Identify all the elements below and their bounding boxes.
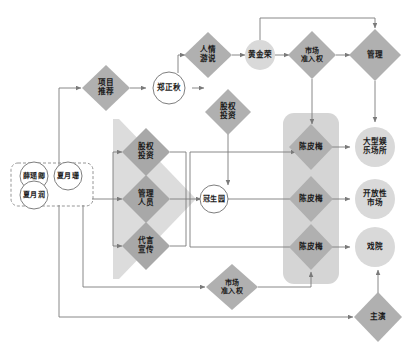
- node-shi-chang-zhun-ru-quan-bottom: [206, 264, 258, 310]
- node-zheng-zheng-qiu: [153, 72, 185, 104]
- node-xi-yuan: [355, 227, 395, 267]
- node-guan-sheng-yuan: [200, 185, 228, 213]
- node-xiang-mu-tui-jian: [82, 65, 130, 111]
- node-xia-yue-run: [20, 181, 48, 209]
- node-da-xing-yu-le-chang-suo: [355, 127, 395, 167]
- node-xia-yue-shan: [54, 162, 82, 190]
- node-kai-fang-xing-shi-chang: [355, 179, 395, 219]
- node-ren-qing-you-shui: [184, 32, 232, 78]
- diagram-svg: [0, 0, 418, 349]
- node-shi-chang-zhun-ru-quan-top: [288, 31, 336, 79]
- diagram-canvas: 薛瑶卿 夏月珊 夏月润 项目 推荐 郑正秋 人情 游说 黄金荣 市场 准入权 管…: [0, 0, 418, 349]
- node-guan-li: [349, 29, 401, 81]
- node-gu-quan-tou-zi-top: [205, 89, 251, 135]
- node-zhu-yan: [354, 292, 402, 342]
- node-huang-jin-rong: [245, 40, 275, 70]
